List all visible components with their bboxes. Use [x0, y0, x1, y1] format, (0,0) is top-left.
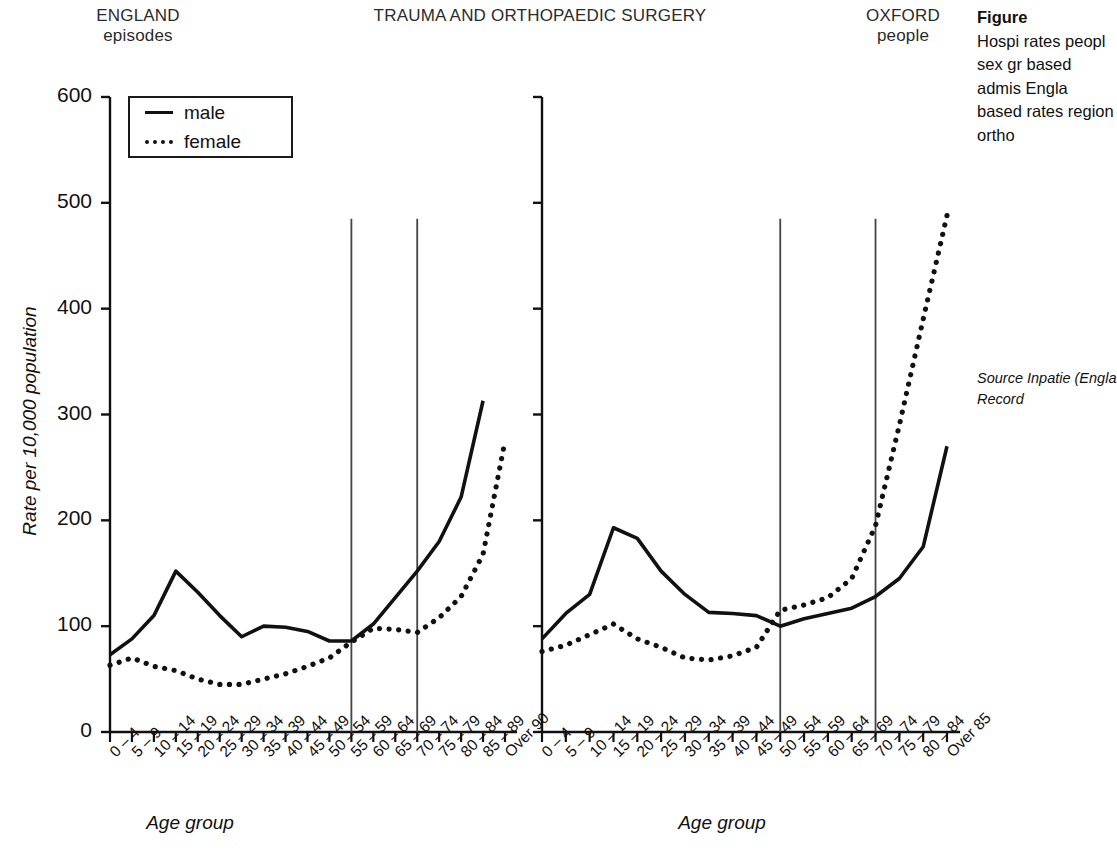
legend-label-male: male: [184, 102, 225, 124]
y-tick-label: 300: [22, 401, 92, 425]
y-tick-label: 400: [22, 295, 92, 319]
legend-label-female: female: [184, 131, 241, 153]
y-tick-label: 600: [22, 83, 92, 107]
series-line-male: [110, 401, 483, 655]
series-line-female: [542, 216, 947, 661]
legend-entry-female: female: [130, 127, 291, 156]
x-axis-title-oxford: Age group: [572, 812, 872, 834]
y-tick-label: 100: [22, 612, 92, 636]
legend-entry-male: male: [130, 98, 291, 127]
y-tick-label: 500: [22, 189, 92, 213]
line-solid-icon: [142, 111, 176, 114]
x-axis-title-england: Age group: [40, 812, 340, 834]
y-tick-label: 200: [22, 506, 92, 530]
series-line-female: [110, 441, 505, 684]
y-tick-label: 0: [22, 718, 92, 742]
chart-panel-oxford: 0 – 45 – 910 – 1415 – 1920 – 2425 – 2930…: [522, 0, 1044, 850]
legend: male female: [128, 96, 293, 158]
line-dotted-icon: [142, 140, 176, 144]
